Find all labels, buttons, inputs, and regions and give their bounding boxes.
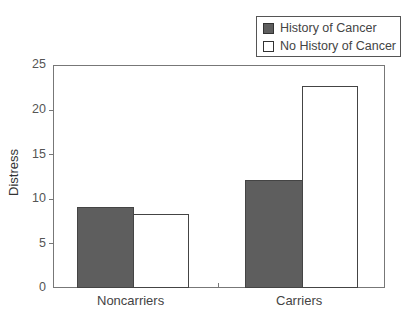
legend-item-no-history: No History of Cancer xyxy=(263,38,396,54)
legend-label: History of Cancer xyxy=(280,21,377,35)
bar-noncarriers-history xyxy=(77,207,134,288)
y-axis-label: Distress xyxy=(6,149,21,196)
y-tick-label: 25 xyxy=(24,57,46,71)
bar-carriers-no-history xyxy=(302,86,358,288)
x-mid-tick xyxy=(218,283,219,288)
y-tick-label: 20 xyxy=(24,102,46,116)
x-category-label: Noncarriers xyxy=(97,293,164,308)
legend-swatch-white xyxy=(263,41,274,52)
y-tick-label: 10 xyxy=(24,191,46,205)
x-category-label: Carriers xyxy=(276,293,322,308)
y-tick-label: 15 xyxy=(24,147,46,161)
legend-swatch-dark xyxy=(263,23,274,34)
bar-noncarriers-no-history xyxy=(133,214,189,288)
bar-carriers-history xyxy=(245,180,303,288)
legend-label: No History of Cancer xyxy=(280,39,396,53)
chart-legend: History of Cancer No History of Cancer xyxy=(256,16,401,57)
y-tick-label: 0 xyxy=(24,280,46,294)
legend-item-history: History of Cancer xyxy=(263,20,377,36)
y-tick-label: 5 xyxy=(24,236,46,250)
